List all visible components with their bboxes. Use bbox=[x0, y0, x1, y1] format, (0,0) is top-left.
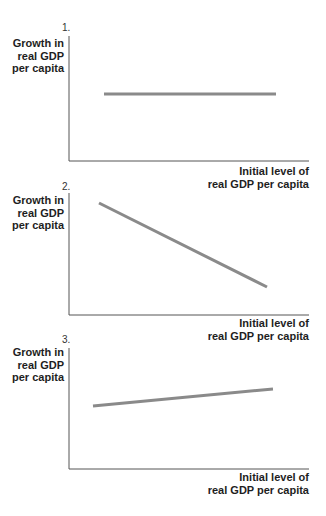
panel-number: 3. bbox=[62, 334, 70, 345]
x-axis-label: Initial level of real GDP per capita bbox=[208, 471, 309, 497]
data-line bbox=[99, 203, 267, 287]
x-axis-label: Initial level of real GDP per capita bbox=[208, 317, 309, 343]
y-axis-label: Growth in real GDP per capita bbox=[0, 346, 64, 384]
data-line bbox=[93, 389, 273, 406]
plot-area-2 bbox=[0, 0, 326, 516]
